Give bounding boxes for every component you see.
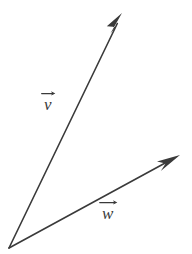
vector-w-shaft (9, 162, 167, 248)
vector-w-overset-arrow-icon (99, 198, 118, 205)
vector-w-label-text: w (102, 204, 113, 223)
vector-w-glyph: w (102, 205, 113, 222)
vector-v-overset-arrow-icon (41, 89, 56, 96)
vector-v-label: v (44, 96, 52, 113)
vector-v-glyph: v (44, 96, 52, 113)
vector-w-arrowhead (157, 155, 180, 171)
vector-diagram: v w (0, 0, 192, 254)
vector-v-label-text: v (44, 95, 52, 114)
vector-w (9, 155, 180, 248)
vector-canvas (0, 0, 192, 254)
vector-w-label: w (102, 205, 113, 222)
